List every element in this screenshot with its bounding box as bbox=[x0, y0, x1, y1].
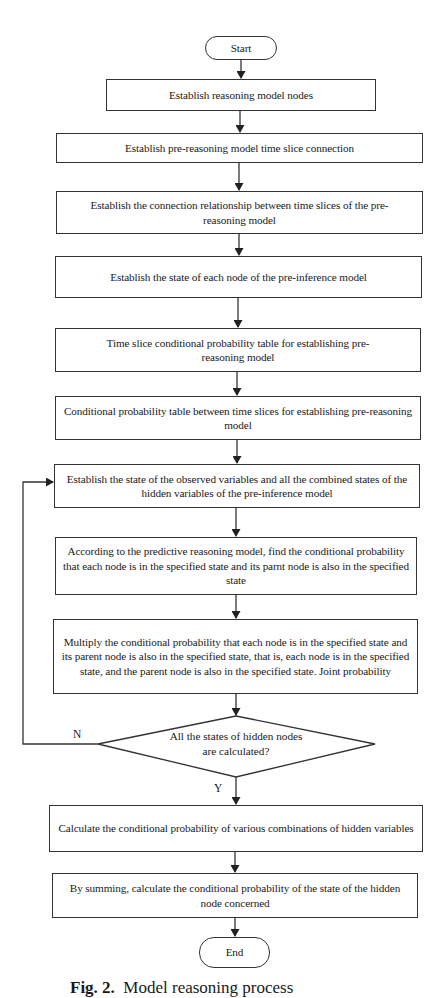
step-establish-nodes: Establish reasoning model nodes bbox=[106, 79, 376, 111]
start-terminal: Start bbox=[205, 36, 277, 60]
decision-yes-label: Y bbox=[214, 782, 222, 794]
step-time-slice-cpt: Time slice conditional probability table… bbox=[55, 328, 421, 372]
step-connection-relationship: Establish the connection relationship be… bbox=[56, 191, 423, 234]
step-between-slices-cpt: Conditional probability table between ti… bbox=[55, 396, 421, 440]
figure-caption: Fig. 2. Model reasoning process bbox=[70, 978, 293, 998]
end-terminal: End bbox=[199, 937, 270, 968]
caption-text: Model reasoning process bbox=[123, 978, 293, 997]
step-node-states: Establish the state of each node of the … bbox=[55, 256, 422, 298]
step-combinations-probability: Calculate the conditional probability of… bbox=[49, 805, 423, 852]
decision-no-label: N bbox=[73, 728, 81, 740]
step-joint-probability: Multiply the conditional probability tha… bbox=[53, 619, 418, 694]
step-time-slice-connection: Establish pre-reasoning model time slice… bbox=[56, 133, 423, 163]
caption-label: Fig. 2. bbox=[70, 978, 115, 997]
step-observed-hidden-states: Establish the state of the observed vari… bbox=[54, 464, 420, 508]
step-summing-probability: By summing, calculate the conditional pr… bbox=[52, 873, 418, 918]
decision-hidden-states-calculated: All the states of hidden nodes are calcu… bbox=[168, 729, 304, 759]
step-find-conditional-probability: According to the predictive reasoning mo… bbox=[55, 537, 417, 595]
